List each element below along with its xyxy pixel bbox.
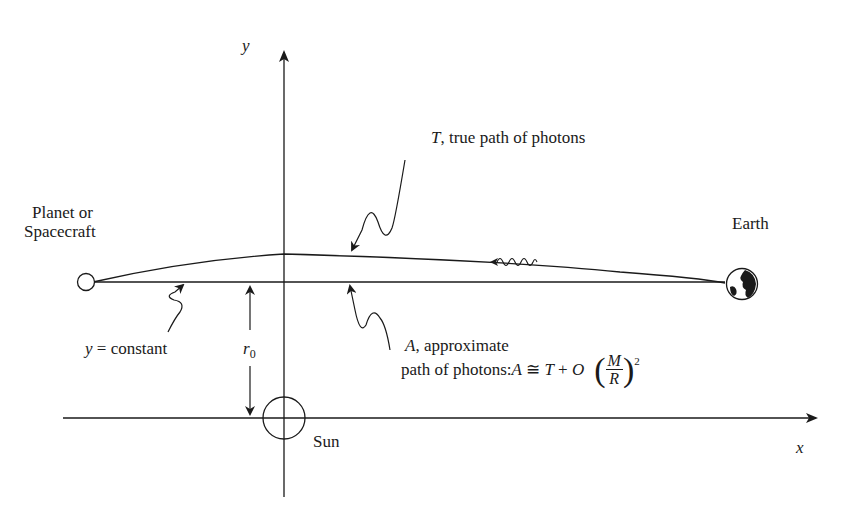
diagram-canvas bbox=[0, 0, 847, 519]
eq-A: A bbox=[512, 360, 522, 379]
eq-paren-close: ) bbox=[623, 360, 634, 379]
approx-line2-text: path of photons: bbox=[401, 360, 512, 379]
pointer-y-constant bbox=[168, 285, 183, 332]
planet-icon bbox=[78, 274, 95, 291]
true-path-curve bbox=[93, 254, 725, 283]
approx-path-equation: path of photons: A ≅ T + O ( M R ) 2 bbox=[401, 349, 640, 389]
pointer-approximate-path bbox=[350, 286, 390, 350]
eq-paren-open: ( bbox=[594, 360, 605, 379]
r0-var: r bbox=[243, 339, 250, 358]
true-path-text: , true path of photons bbox=[440, 128, 585, 147]
r0-label: r0 bbox=[243, 339, 256, 364]
y-constant-label: y = constant bbox=[85, 339, 167, 358]
planet-label-line2: Spacecraft bbox=[24, 222, 96, 241]
true-path-label: T, true path of photons bbox=[431, 128, 585, 147]
planet-label-line1: Planet or bbox=[32, 203, 93, 222]
eq-numerator: M bbox=[606, 352, 623, 370]
eq-T: T bbox=[544, 360, 553, 379]
earth-label: Earth bbox=[732, 214, 769, 233]
y-constant-text: = constant bbox=[93, 339, 168, 358]
eq-O: O bbox=[572, 360, 584, 379]
sun-label: Sun bbox=[313, 432, 339, 451]
eq-denominator: R bbox=[606, 370, 623, 387]
earth-icon bbox=[727, 269, 758, 300]
eq-exponent: 2 bbox=[634, 352, 640, 371]
pointer-true-path bbox=[352, 160, 405, 250]
y-constant-var: y bbox=[85, 339, 93, 358]
y-axis-label: y bbox=[242, 36, 250, 55]
r0-sub: 0 bbox=[250, 347, 256, 361]
x-axis-label: x bbox=[796, 438, 804, 457]
eq-fraction: M R bbox=[606, 352, 623, 387]
eq-plus: + bbox=[554, 360, 572, 379]
eq-cong: ≅ bbox=[522, 360, 545, 379]
